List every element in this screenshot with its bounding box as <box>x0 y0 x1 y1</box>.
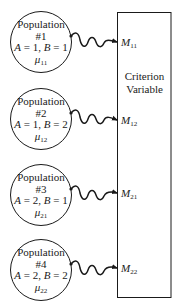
sampling-arrow-3 <box>69 186 117 200</box>
population-2-label: Population #2 A = 1, B = 2 μ12 <box>10 96 72 146</box>
population-mean: μ12 <box>10 131 72 147</box>
criterion-variable-box <box>118 13 172 298</box>
sampling-arrow-2 <box>69 110 117 124</box>
population-levels: A = 1, B = 1 <box>10 42 72 54</box>
population-mean: μ11 <box>10 54 72 70</box>
population-title: Population <box>10 19 72 31</box>
population-title: Population <box>10 172 72 184</box>
sample-mean-label-4: M22 <box>121 262 137 278</box>
population-4-label: Population #4 A = 2, B = 2 μ22 <box>10 247 72 297</box>
sample-mean-label-3: M21 <box>121 187 137 203</box>
population-mean: μ21 <box>10 207 72 223</box>
sampling-arrow-4 <box>69 261 117 275</box>
criterion-variable-label: Criterion Variable <box>118 70 171 96</box>
criterion-line-2: Variable <box>118 83 171 96</box>
sample-mean-label-1: M11 <box>121 36 137 52</box>
population-levels: A = 2, B = 2 <box>10 270 72 282</box>
population-1-label: Population #1 A = 1, B = 1 μ11 <box>10 19 72 69</box>
population-levels: A = 2, B = 1 <box>10 195 72 207</box>
population-levels: A = 1, B = 2 <box>10 119 72 131</box>
sample-mean-label-2: M12 <box>121 114 137 130</box>
population-title: Population <box>10 247 72 259</box>
sampling-arrow-1 <box>69 33 117 47</box>
population-mean: μ22 <box>10 282 72 298</box>
criterion-line-1: Criterion <box>118 70 171 83</box>
population-title: Population <box>10 96 72 108</box>
population-3-label: Population #3 A = 2, B = 1 μ21 <box>10 172 72 222</box>
